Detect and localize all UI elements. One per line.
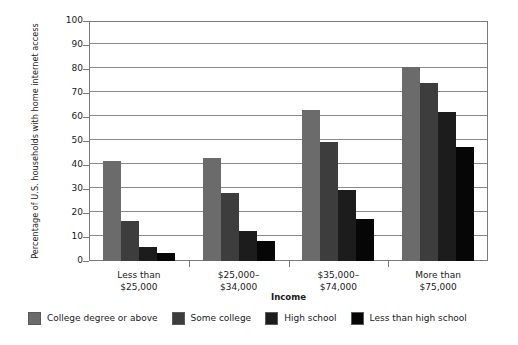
legend-swatch-icon: [351, 312, 364, 325]
bar: [257, 241, 275, 261]
legend-item[interactable]: College degree or above: [28, 312, 158, 325]
internet-access-bar-chart: Percentage of U.S. households with home …: [0, 0, 518, 345]
bar: [302, 110, 320, 261]
bar: [121, 221, 139, 261]
y-axis-tick-mark: [83, 69, 89, 70]
y-axis-tick-label: 80: [53, 64, 83, 73]
bar: [402, 67, 420, 261]
y-axis-tick-label: 40: [53, 160, 83, 169]
legend-swatch-icon: [172, 312, 185, 325]
legend-swatch-icon: [265, 312, 278, 325]
y-axis-tick-label: 0: [53, 256, 83, 265]
bar: [139, 247, 157, 261]
bar-group: [302, 21, 374, 261]
y-axis-tick-mark: [83, 261, 89, 262]
x-axis-tick-label: $35,000–$74,000: [283, 270, 393, 293]
x-axis-tick-label-line: Less than: [84, 270, 194, 282]
bar: [456, 147, 474, 261]
x-axis-title: Income: [89, 292, 488, 302]
legend-item[interactable]: High school: [265, 312, 336, 325]
y-axis-tick-label: 90: [53, 40, 83, 49]
x-axis-tick-label-line: $25,000–: [184, 270, 294, 282]
y-axis-tick-label: 50: [53, 136, 83, 145]
x-axis-tick-mark: [189, 261, 190, 267]
y-axis-tick-label: 70: [53, 88, 83, 97]
x-axis-tick-mark: [289, 261, 290, 267]
bar: [221, 193, 239, 261]
x-axis-tick-label-line: $35,000–: [283, 270, 393, 282]
legend-label: Some college: [191, 313, 252, 323]
y-axis-tick-mark: [83, 21, 89, 22]
y-axis-tick-label: 20: [53, 208, 83, 217]
bar-group: [402, 21, 474, 261]
y-axis-tick-mark: [83, 189, 89, 190]
legend-item[interactable]: Some college: [172, 312, 252, 325]
bar: [157, 253, 175, 261]
x-axis-tick-label: $25,000–$34,000: [184, 270, 294, 293]
legend-swatch-icon: [28, 312, 41, 325]
y-axis-tick-label: 100: [53, 16, 83, 25]
y-axis-tick-mark: [83, 165, 89, 166]
y-axis-tick-mark: [83, 141, 89, 142]
y-axis-tick-label: 60: [53, 112, 83, 121]
bar: [356, 219, 374, 261]
legend-label: College degree or above: [47, 313, 158, 323]
x-axis-tick-label: More than$75,000: [383, 270, 493, 293]
legend-label: Less than high school: [370, 313, 467, 323]
y-axis-tick-mark: [83, 93, 89, 94]
bar: [103, 161, 121, 261]
bar-group: [103, 21, 175, 261]
y-axis-tick-labels: 1009080706050403020100: [49, 0, 83, 345]
y-axis-tick-mark: [83, 213, 89, 214]
bar-groups: [89, 21, 488, 261]
chart-legend: College degree or aboveSome collegeHigh …: [28, 310, 481, 326]
y-axis-tick-label: 30: [53, 184, 83, 193]
y-axis-title: Percentage of U.S. households with home …: [22, 18, 48, 264]
x-axis-tick-mark: [388, 261, 389, 267]
bar-group: [203, 21, 275, 261]
bar: [320, 142, 338, 261]
bar: [203, 158, 221, 261]
y-axis-title-text: Percentage of U.S. households with home …: [30, 23, 41, 259]
bar: [420, 83, 438, 261]
legend-label: High school: [284, 313, 336, 323]
x-axis-tick-label: Less than$25,000: [84, 270, 194, 293]
y-axis-tick-mark: [83, 117, 89, 118]
y-axis-tick-label: 10: [53, 232, 83, 241]
y-axis-tick-mark: [83, 237, 89, 238]
x-axis-tick-label-line: More than: [383, 270, 493, 282]
bar: [438, 112, 456, 261]
bar: [239, 231, 257, 261]
y-axis-tick-mark: [83, 45, 89, 46]
bar: [338, 190, 356, 261]
legend-item[interactable]: Less than high school: [351, 312, 467, 325]
